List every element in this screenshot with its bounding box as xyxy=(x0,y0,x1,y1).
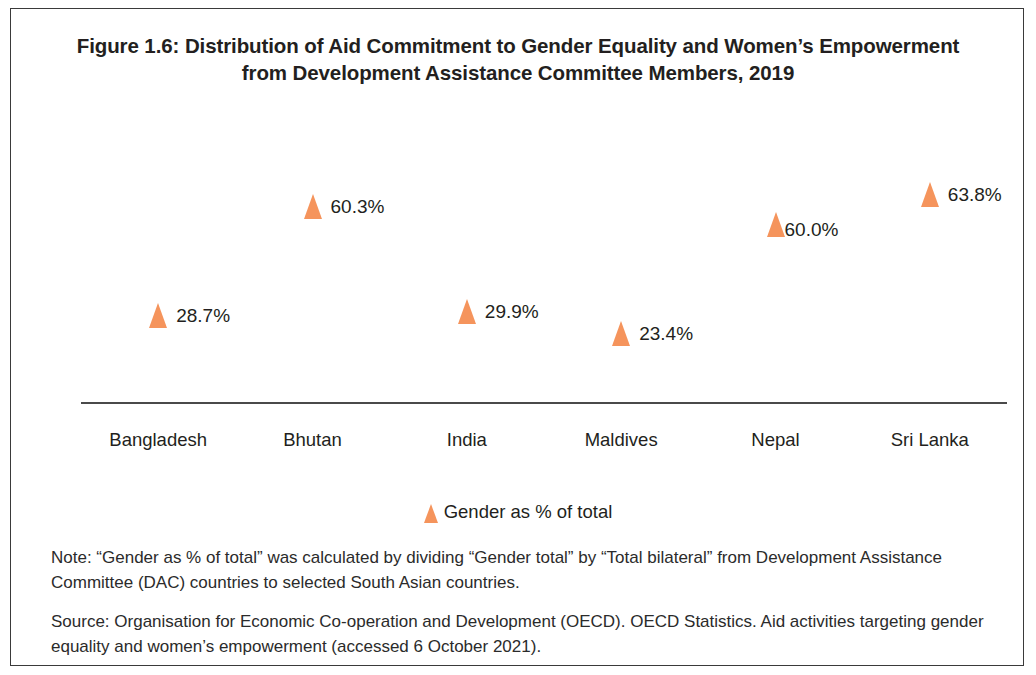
figure-title-line-2: from Development Assistance Committee Me… xyxy=(45,59,991,86)
data-point: 60.0% xyxy=(767,195,839,242)
category-label-bhutan: Bhutan xyxy=(283,429,342,451)
category-label-sri-lanka: Sri Lanka xyxy=(891,429,969,451)
data-point: 23.4% xyxy=(612,321,693,346)
figure-note: Note: “Gender as % of total” was calcula… xyxy=(51,545,993,595)
triangle-marker-icon xyxy=(921,182,939,207)
triangle-marker-icon xyxy=(149,303,167,328)
figure-title-line-1: Figure 1.6: Distribution of Aid Commitme… xyxy=(45,32,991,59)
data-point: 60.3% xyxy=(304,194,385,219)
chart-legend: Gender as % of total xyxy=(11,501,1025,523)
triangle-marker-icon xyxy=(424,504,438,523)
data-point-label: 60.3% xyxy=(331,194,385,219)
data-point-label: 23.4% xyxy=(639,321,693,346)
plot-area: 28.7%60.3%29.9%23.4%60.0%63.8% xyxy=(11,109,1025,399)
figure-source: Source: Organisation for Economic Co-ope… xyxy=(51,609,993,659)
category-label-bangladesh: Bangladesh xyxy=(109,429,207,451)
legend-label: Gender as % of total xyxy=(444,501,613,523)
data-point-label: 29.9% xyxy=(485,299,539,324)
figure-footer: Note: “Gender as % of total” was calcula… xyxy=(51,545,993,673)
figure-container: Figure 1.6: Distribution of Aid Commitme… xyxy=(10,8,1024,666)
data-point: 28.7% xyxy=(149,303,230,328)
data-point: 63.8% xyxy=(921,182,1002,207)
data-point-label: 63.8% xyxy=(948,182,1002,207)
category-label-maldives: Maldives xyxy=(585,429,658,451)
triangle-marker-icon xyxy=(458,299,476,324)
triangle-marker-icon xyxy=(612,321,630,346)
category-label-india: India xyxy=(447,429,487,451)
x-axis-line xyxy=(81,402,1007,404)
category-label-nepal: Nepal xyxy=(751,429,799,451)
triangle-marker-icon xyxy=(304,194,322,219)
data-point-label: 28.7% xyxy=(176,303,230,328)
triangle-marker-icon xyxy=(767,195,785,237)
figure-title: Figure 1.6: Distribution of Aid Commitme… xyxy=(45,32,991,86)
x-axis-category-labels: BangladeshBhutanIndiaMaldivesNepalSri La… xyxy=(81,429,1007,465)
data-point: 29.9% xyxy=(458,299,539,324)
